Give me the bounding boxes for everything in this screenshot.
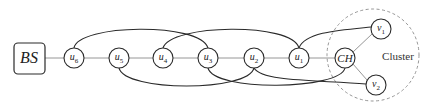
node-label-u1: u1 [295,51,304,65]
arc-u5-u2 [119,68,254,86]
base-station-label: BS [20,49,38,67]
node-u1-sub: 1 [300,57,304,65]
node-u4-sub: 4 [164,57,168,65]
arc-u4-u1 [163,29,299,48]
node-label-u5: u5 [115,51,124,65]
cluster-label: Cluster [382,50,414,62]
node-u6-sub: 6 [75,57,79,65]
node-label-v2: v2 [372,78,380,92]
node-u3-sub: 3 [209,57,213,65]
node-v1-sub: 1 [381,28,385,36]
node-u5-sub: 5 [120,57,124,65]
node-label-CH: CH [337,52,352,64]
node-label-u6: u6 [70,51,79,65]
arc-u6-u3 [74,29,208,48]
lower-arcs [119,68,366,86]
node-label-v1: v1 [377,22,385,36]
node-label-u4: u4 [159,51,168,65]
arc-u2-v2 [254,68,366,84]
node-v2-sub: 2 [376,84,380,92]
node-u2-sub: 2 [255,57,259,65]
node-label-u3: u3 [204,51,213,65]
upper-arcs [74,27,371,48]
node-label-u2: u2 [250,51,259,65]
node-CH-base: CH [337,52,352,64]
network-diagram [0,0,430,109]
